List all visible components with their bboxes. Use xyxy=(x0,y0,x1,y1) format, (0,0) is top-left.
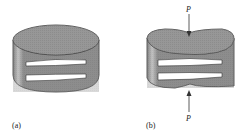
panel-label-b: (b) xyxy=(146,121,156,130)
force-label-bottom: P xyxy=(185,114,191,123)
force-arrow-bottom xyxy=(187,90,192,112)
panel-b: P P (b) xyxy=(146,5,234,130)
force-label-top: P xyxy=(185,5,191,14)
panel-a: (a) xyxy=(12,25,99,130)
diagram-canvas: (a) P P (b) xyxy=(0,0,245,137)
panel-label-a: (a) xyxy=(12,121,21,130)
